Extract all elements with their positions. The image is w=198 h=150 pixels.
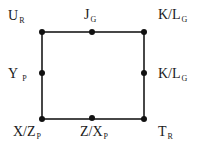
label-subscript: P	[104, 132, 108, 141]
node-bottom-right	[141, 116, 147, 122]
label-subscript: R	[168, 132, 173, 141]
label-main: Z/X	[80, 124, 103, 139]
label-subscript: R	[19, 16, 24, 25]
label-mid-right: K/LG	[158, 67, 187, 83]
node-mid-left	[39, 70, 45, 76]
label-top-mid: JG	[84, 8, 96, 24]
label-subscript: G	[182, 74, 188, 83]
node-bottom-mid	[89, 115, 95, 121]
node-mid-right	[141, 70, 147, 76]
label-subscript: G	[90, 15, 96, 24]
label-main: K/L	[158, 7, 181, 22]
label-top-left: UR	[8, 9, 24, 25]
label-subscript: G	[182, 15, 188, 24]
label-subscript: P	[37, 132, 41, 141]
label-top-right: K/LG	[158, 8, 187, 24]
node-bottom-left	[39, 116, 45, 122]
label-bottom-left: X/ZP	[13, 125, 41, 141]
label-main: U	[8, 8, 18, 23]
label-subscript: P	[22, 74, 26, 83]
node-top-mid	[89, 29, 95, 35]
node-top-left	[39, 29, 45, 35]
label-bottom-mid: Z/XP	[80, 125, 108, 141]
label-main: X/Z	[13, 124, 36, 139]
node-top-right	[141, 29, 147, 35]
label-main: Y	[8, 66, 18, 81]
label-main: K/L	[158, 66, 181, 81]
label-mid-left: YP	[8, 67, 27, 83]
label-main: J	[84, 7, 89, 22]
label-bottom-right: TR	[158, 125, 173, 141]
square-frame	[42, 32, 144, 119]
label-main: T	[158, 124, 167, 139]
